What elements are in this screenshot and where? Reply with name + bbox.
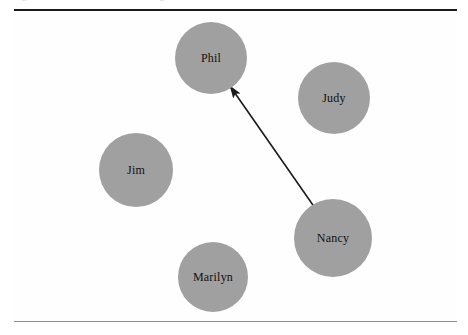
node-label-phil: Phil <box>201 52 221 64</box>
node-label-judy: Judy <box>322 92 345 104</box>
node-label-marilyn: Marilyn <box>193 271 233 283</box>
figure-rule-bottom <box>14 321 457 322</box>
node-label-nancy: Nancy <box>317 232 349 244</box>
node-nancy[interactable]: Nancy <box>294 199 372 277</box>
node-judy[interactable]: Judy <box>298 62 370 134</box>
node-jim[interactable]: Jim <box>99 133 173 207</box>
node-phil[interactable]: Phil <box>175 22 247 94</box>
node-marilyn[interactable]: Marilyn <box>178 242 248 312</box>
figure-root: g g PhilJudyJimNancyMarilyn <box>0 0 468 335</box>
node-label-jim: Jim <box>127 164 145 176</box>
